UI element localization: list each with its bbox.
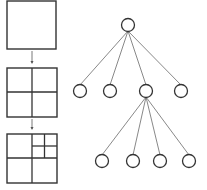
tree-node-level1-1 — [74, 85, 87, 98]
tree-node-level2-3 — [154, 155, 167, 168]
tree — [74, 19, 196, 168]
quadtree-diagram — [0, 0, 207, 190]
square-level-0 — [7, 1, 56, 49]
tree-node-level1-4 — [175, 85, 188, 98]
tree-node-level2-1 — [96, 155, 109, 168]
square-level-1 — [7, 68, 57, 117]
arrow-down-2 — [31, 119, 34, 130]
tree-root-node — [122, 19, 135, 32]
tree-node-level1-3 — [140, 85, 153, 98]
arrow-down-1 — [31, 51, 34, 64]
tree-node-level2-4 — [183, 155, 196, 168]
tree-edges-level1 — [80, 31, 181, 85]
tree-node-level2-2 — [127, 155, 140, 168]
tree-edges-level2 — [102, 97, 189, 155]
tree-node-level1-2 — [104, 85, 117, 98]
square-level-2 — [7, 134, 57, 183]
subdivision-column — [7, 1, 57, 183]
